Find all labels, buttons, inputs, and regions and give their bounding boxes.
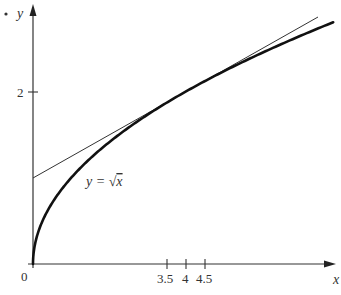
curve-label-var: x xyxy=(115,174,123,189)
y-axis-label: y xyxy=(15,6,24,21)
x-tick-label-4: 4 xyxy=(182,271,189,286)
origin-label: 0 xyxy=(21,269,28,284)
x-tick-label-3-5: 3.5 xyxy=(157,271,173,286)
y-axis-arrow-icon xyxy=(30,4,37,16)
sqrt-curve xyxy=(33,22,333,264)
x-axis-label: x xyxy=(332,272,340,287)
bullet-dot xyxy=(4,12,7,15)
x-axis-arrow-icon xyxy=(324,261,336,268)
x-tick-label-4-5: 4.5 xyxy=(196,271,212,286)
curve-label-prefix: y = xyxy=(84,174,109,189)
sqrt-tangent-chart: y x 0 2 3.5 4 4.5 y = √x xyxy=(0,0,341,295)
y-tick-label-2: 2 xyxy=(17,85,24,100)
curve-label: y = √x xyxy=(84,174,123,189)
